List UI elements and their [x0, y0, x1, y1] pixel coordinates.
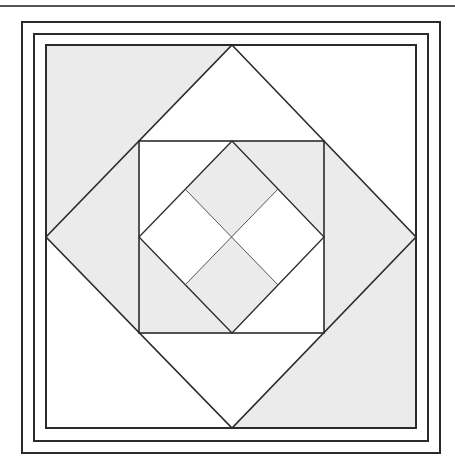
- quilt-block-diagram: [0, 0, 455, 473]
